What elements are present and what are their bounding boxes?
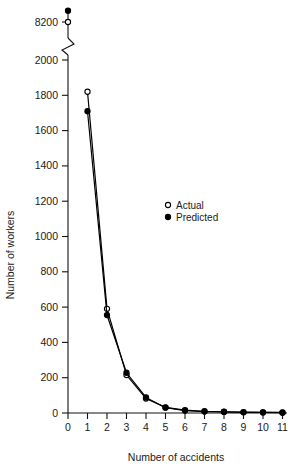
y-axis-title: Number of workers — [4, 211, 16, 300]
y-tick-label-600: 600 — [40, 301, 58, 313]
data-point-actual-x0 — [65, 19, 70, 24]
x-tick-label-8: 8 — [221, 421, 227, 433]
x-tick-label-3: 3 — [124, 421, 130, 433]
data-point-predicted-x3 — [124, 370, 129, 375]
data-point-predicted-x9 — [241, 410, 246, 415]
data-point-predicted-x8 — [221, 409, 226, 414]
legend-marker-actual — [165, 202, 170, 207]
y-tick-label-2000: 2000 — [35, 54, 59, 66]
y-tick-label-400: 400 — [40, 336, 58, 348]
data-point-predicted-x2 — [104, 312, 109, 317]
x-tick-label-0: 0 — [65, 421, 71, 433]
data-point-predicted-x11 — [280, 410, 285, 415]
x-tick-label-9: 9 — [241, 421, 247, 433]
legend-label-actual: Actual — [176, 200, 204, 211]
series-line-actual — [88, 92, 283, 413]
y-tick-label-800: 800 — [40, 265, 58, 277]
y-axis-break-icon — [62, 38, 74, 55]
y-tick-label-8200: 8200 — [35, 16, 59, 28]
x-axis-title: Number of accidents — [128, 451, 224, 463]
chart-container: Number of workers Number of accidents 82… — [0, 0, 293, 466]
x-tick-label-1: 1 — [85, 421, 91, 433]
x-tick-label-4: 4 — [143, 421, 149, 433]
y-tick-label-1600: 1600 — [35, 124, 59, 136]
x-tick-label-5: 5 — [163, 421, 169, 433]
data-point-predicted-x10 — [260, 410, 265, 415]
y-tick-label-1200: 1200 — [35, 195, 59, 207]
data-point-predicted-x4 — [143, 395, 148, 400]
x-tick-label-6: 6 — [182, 421, 188, 433]
y-tick-label-200: 200 — [40, 371, 58, 383]
data-point-predicted-x5 — [163, 405, 168, 410]
data-point-predicted-x7 — [202, 409, 207, 414]
chart-legend: Actual Predicted — [165, 200, 218, 223]
accidents-vs-workers-line-chart: Number of workers Number of accidents 82… — [0, 0, 293, 466]
y-tick-label-1800: 1800 — [35, 89, 59, 101]
data-point-predicted-x1 — [85, 109, 90, 114]
data-point-predicted-x0 — [65, 8, 70, 13]
series-line-predicted — [88, 111, 283, 412]
x-tick-label-11: 11 — [277, 421, 288, 433]
legend-marker-predicted — [165, 214, 170, 219]
data-point-predicted-x6 — [182, 408, 187, 413]
x-tick-label-2: 2 — [104, 421, 110, 433]
x-tick-label-10: 10 — [257, 421, 269, 433]
y-tick-label-1000: 1000 — [35, 230, 59, 242]
y-tick-label-1400: 1400 — [35, 159, 59, 171]
data-point-actual-x1 — [85, 89, 90, 94]
y-tick-label-0: 0 — [52, 407, 58, 419]
legend-label-predicted: Predicted — [176, 212, 218, 223]
x-tick-label-7: 7 — [202, 421, 208, 433]
